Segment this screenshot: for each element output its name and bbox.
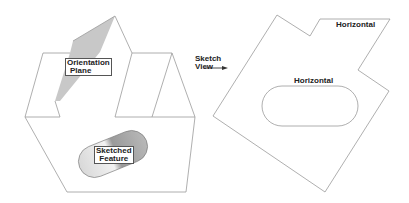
sketch-slot <box>262 86 358 126</box>
sketched-feature-label: Sketched Feature <box>94 146 134 164</box>
sketched-feature-label-line2: Feature <box>96 155 132 163</box>
sketch-view-label-line2: View <box>195 63 221 71</box>
diagram-canvas <box>0 0 409 203</box>
sketch-view-label: Sketch View <box>195 55 221 71</box>
orientation-plane-label: Orientation Plane <box>65 58 112 76</box>
sketch-outline <box>213 15 390 192</box>
block-edge-inner <box>152 53 172 117</box>
orientation-plane-label-line2: Plane <box>67 67 110 75</box>
horizontal-label-slot: Horizontal <box>294 77 333 85</box>
horizontal-label-top: Horizontal <box>336 21 375 29</box>
block-edge-left <box>25 53 60 117</box>
